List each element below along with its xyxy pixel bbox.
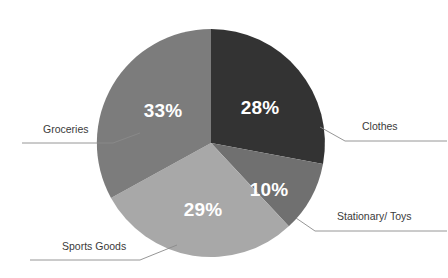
category-label-stationary-toys: Stationary/ Toys bbox=[337, 210, 412, 222]
pie-chart-figure: 28% 10% 29% 33% Clothes Stationary/ Toys… bbox=[0, 0, 448, 278]
value-label-groceries: 33% bbox=[144, 100, 183, 121]
category-label-groceries: Groceries bbox=[43, 123, 89, 135]
category-label-clothes: Clothes bbox=[362, 120, 398, 132]
pie-chart-svg: 28% 10% 29% 33% Clothes Stationary/ Toys… bbox=[0, 0, 448, 278]
value-label-clothes: 28% bbox=[241, 97, 280, 118]
pie-slices bbox=[97, 29, 325, 257]
value-label-sports-goods: 29% bbox=[184, 199, 223, 220]
value-label-stationary-toys: 10% bbox=[250, 179, 289, 200]
category-label-sports-goods: Sports Goods bbox=[62, 240, 126, 252]
